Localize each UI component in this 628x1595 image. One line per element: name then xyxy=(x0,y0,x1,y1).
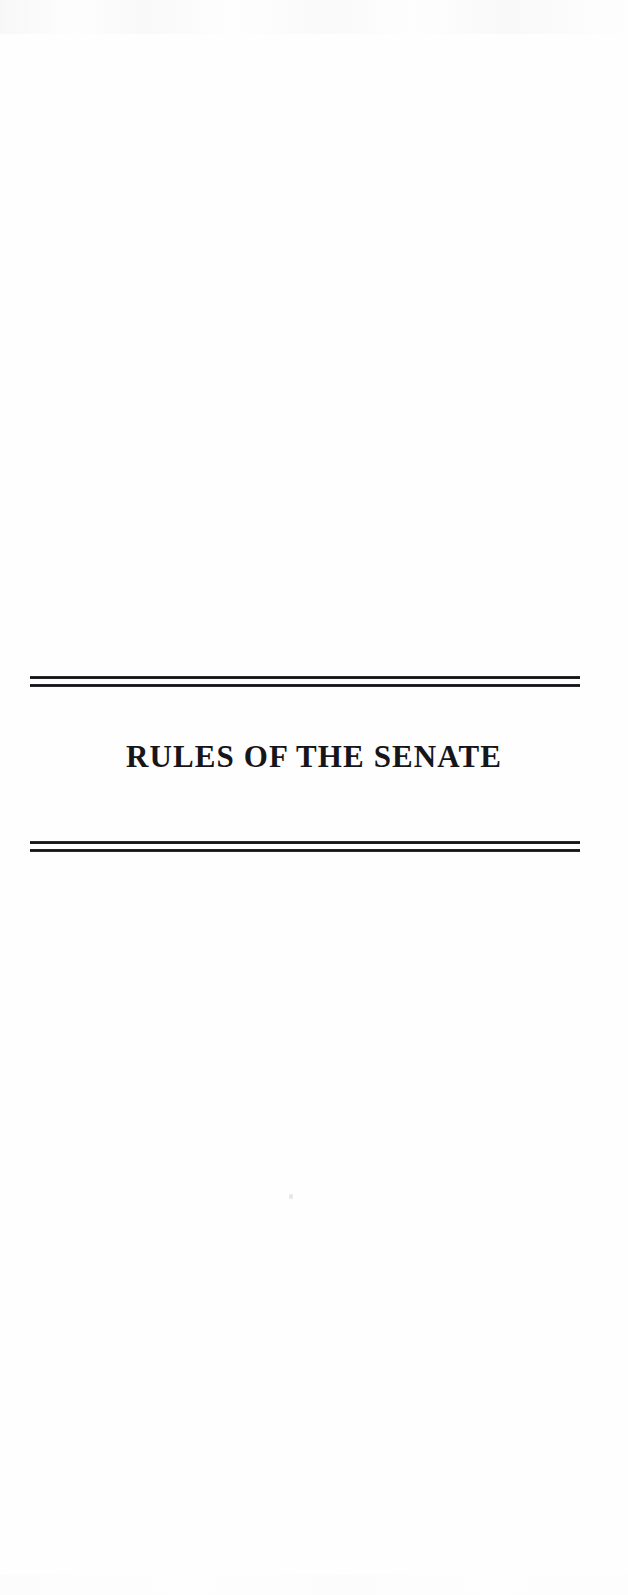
page-title: RULES OF THE SENATE xyxy=(0,737,628,777)
scan-speck-artifact xyxy=(289,1194,293,1199)
top-rule-ornament xyxy=(30,676,580,687)
bottom-rule-line-2 xyxy=(30,849,580,852)
scan-noise-band-bottom xyxy=(0,1575,628,1595)
bottom-rule-ornament xyxy=(30,841,580,852)
title-block: RULES OF THE SENATE xyxy=(0,737,628,777)
scanned-page: RULES OF THE SENATE xyxy=(0,0,628,1595)
top-rule-line-2 xyxy=(30,684,580,687)
scan-noise-band-top xyxy=(0,0,628,34)
